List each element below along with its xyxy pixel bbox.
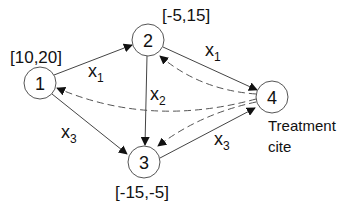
node-4: 4: [256, 81, 288, 113]
node-1-label: 1: [35, 74, 45, 94]
node-1-range: [10,20]: [10, 48, 62, 67]
node-3-range: [-15,-5]: [115, 183, 169, 202]
edge-label-2-4: x1: [205, 40, 221, 64]
dashed-edge-4-to-2: [160, 56, 256, 94]
edge-3-to-4: [160, 108, 255, 158]
node-1: 1: [24, 67, 56, 99]
edge-label-1-3: x3: [61, 122, 77, 146]
edge-label-1-2: x1: [88, 61, 104, 85]
edge-2-to-3: [145, 56, 147, 145]
node-4-label: 4: [267, 88, 277, 108]
node-2-range: [-5,15]: [162, 6, 210, 25]
node-4-note-line1: Treatment: [268, 117, 337, 134]
causal-graph-diagram: x1 x1 x2 x3 x3 1 2 3 4 [10,20] [-5,15] […: [0, 0, 359, 216]
node-4-note-line2: cite: [268, 138, 291, 155]
node-3: 3: [128, 146, 160, 178]
edge-label-2-3: x2: [150, 84, 166, 108]
node-3-label: 3: [139, 153, 149, 173]
node-2: 2: [132, 24, 164, 56]
node-2-label: 2: [143, 31, 153, 51]
edge-label-3-4: x3: [214, 129, 230, 153]
